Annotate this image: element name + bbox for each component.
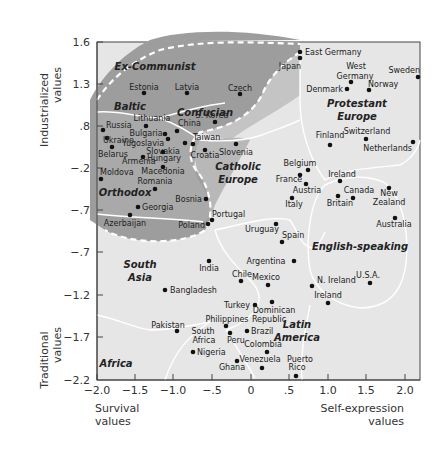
data-point <box>336 194 341 199</box>
y-tick-label: −.7 <box>70 246 90 259</box>
region-label: Asia <box>127 272 152 283</box>
point-label: Brazil <box>251 327 273 336</box>
data-point <box>266 283 271 288</box>
point-label: Australia <box>376 220 411 229</box>
y-axis: 1.6 1.3 .8 −.2 −.7 −.7 −1.2 −1.7 −2.2 <box>63 36 103 387</box>
point-label: Uruguay <box>245 225 279 234</box>
point-label: Argentina <box>246 257 285 266</box>
point-label: Ireland <box>328 170 356 179</box>
data-point <box>328 143 333 148</box>
point-label: Philippines <box>205 315 248 324</box>
region-label: Orthodox <box>99 187 152 198</box>
point-label: Georgia <box>142 203 173 212</box>
data-point <box>136 205 141 210</box>
y-tick-label: −.2 <box>70 162 90 175</box>
point-label: Venezuela <box>239 355 280 364</box>
region-label: Latin <box>283 319 311 330</box>
data-point <box>345 87 350 92</box>
data-point <box>99 177 104 182</box>
data-point <box>298 50 303 55</box>
point-label: Sweden <box>388 66 420 75</box>
point-label: India <box>199 264 219 273</box>
point-label: Peru <box>227 336 245 345</box>
point-label: Switzerland <box>344 127 391 136</box>
data-point <box>144 124 149 129</box>
point-label: Netherlands <box>363 144 412 153</box>
x-tick-label: −1.5 <box>122 384 149 397</box>
data-point <box>245 329 250 334</box>
point-label: Bangladesh <box>170 286 217 295</box>
point-label: Republic <box>252 315 286 324</box>
x-axis-title-left-line2: values <box>95 415 131 428</box>
point-label: Ghana <box>219 363 245 372</box>
point-label: Austria <box>293 186 321 195</box>
point-label: Spain <box>282 231 304 240</box>
point-label: New <box>380 189 398 198</box>
point-label: France <box>276 175 303 184</box>
point-label: Macedonia <box>141 167 184 176</box>
point-label: Zealand <box>373 198 406 207</box>
data-point <box>101 128 106 133</box>
point-label: Belgium <box>284 159 317 168</box>
point-label: Latvia <box>175 83 199 92</box>
x-tick-label: .5 <box>284 384 295 397</box>
point-label: South <box>191 327 214 336</box>
point-label: Nigeria <box>197 348 226 357</box>
point-label: S. Korea <box>196 111 229 120</box>
region-label: Africa <box>98 358 132 369</box>
region-label: Catholic <box>215 161 261 172</box>
data-point <box>292 259 297 264</box>
point-label: Moldova <box>100 168 134 177</box>
x-tick-label: −.5 <box>202 384 222 397</box>
data-point <box>234 142 239 147</box>
point-label: Armenia <box>122 157 156 166</box>
data-point <box>166 137 171 142</box>
point-label: Turkey <box>223 301 250 310</box>
point-label: Dominican <box>253 306 296 315</box>
data-point <box>163 288 168 293</box>
point-label: Canada <box>344 186 375 195</box>
data-point <box>306 168 311 173</box>
point-label: Slovenia <box>219 148 253 157</box>
y-tick-label: −1.7 <box>63 331 90 344</box>
x-tick-label: 1.5 <box>357 384 375 397</box>
region-label: Ex-Communist <box>115 61 197 72</box>
data-point <box>175 129 180 134</box>
data-point <box>265 350 270 355</box>
y-axis-title-bottom-line2: values <box>51 327 64 363</box>
point-label: Ireland <box>314 291 342 300</box>
point-label: Azerbaijan <box>104 219 146 228</box>
data-point <box>270 300 275 305</box>
data-point <box>298 56 303 61</box>
point-label: Taiwan <box>192 133 220 142</box>
point-label: Africa <box>193 336 216 345</box>
point-label: U.S.A. <box>356 271 380 280</box>
y-axis-title-top: Industrialized <box>38 73 51 147</box>
point-label: Lithuania <box>133 114 170 123</box>
data-point <box>204 197 209 202</box>
y-tick-label: −1.2 <box>63 289 90 302</box>
data-point <box>110 145 115 150</box>
x-axis-title-right-line2: values <box>368 415 404 428</box>
point-label: Portugal <box>212 210 245 219</box>
region-label: South <box>123 259 156 270</box>
data-point <box>364 137 369 142</box>
data-point <box>416 75 421 80</box>
point-label: Pakistan <box>151 321 185 330</box>
y-tick-label: .8 <box>80 120 91 133</box>
data-point <box>163 132 168 137</box>
data-point <box>294 374 299 379</box>
point-label: China <box>178 119 201 128</box>
point-label: Romania <box>138 177 173 186</box>
point-label: West <box>346 62 366 71</box>
data-point <box>206 222 211 227</box>
x-tick-label: 1.0 <box>319 384 337 397</box>
y-tick-label: −2.2 <box>63 374 90 387</box>
point-label: Rico <box>288 363 305 372</box>
data-point <box>128 213 133 218</box>
region-label: Protestant <box>327 98 388 109</box>
point-label: Czech <box>228 84 252 93</box>
region-label: Europe <box>218 174 258 185</box>
point-label: East Germany <box>305 48 362 57</box>
data-point <box>183 141 188 146</box>
